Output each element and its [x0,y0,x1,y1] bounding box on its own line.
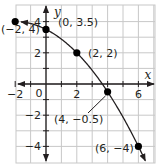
point-label: (2, 2) [88,47,118,60]
y-tick-label: −4 [25,140,41,153]
x-tick-label: 2 [73,88,80,101]
origin-label: 0 [36,87,43,100]
data-point [42,26,49,33]
point-label: (0, 3.5) [58,16,98,29]
point-label: (−2, 4) [1,23,40,36]
x-tick-label: −2 [7,88,23,101]
data-point [104,88,111,95]
data-point [135,143,142,150]
leader-line [88,96,106,113]
y-tick-label: −2 [25,109,41,122]
x-tick-label: 6 [135,88,142,101]
point-label: (6, −4) [95,142,134,155]
y-tick-label: 2 [34,47,41,60]
data-point [73,49,80,56]
x-axis-label: x [145,68,152,82]
point-label: (4, −0.5) [54,113,103,126]
chart: xy −226042−2−4 (−2, 4)(0, 3.5)(2, 2)(4, … [0,0,159,168]
